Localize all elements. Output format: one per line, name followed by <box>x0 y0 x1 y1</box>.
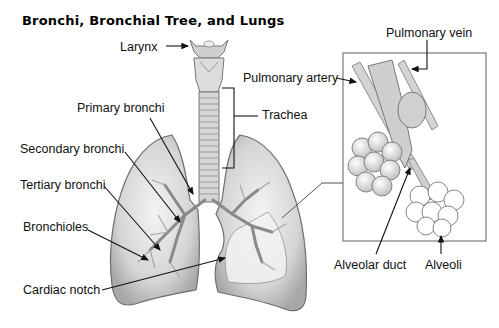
label-secondary-bronchi: Secondary bronchi <box>20 142 124 156</box>
label-pulmonary-vein: Pulmonary vein <box>386 26 472 40</box>
label-alveoli: Alveoli <box>425 258 462 272</box>
label-cardiac-notch: Cardiac notch <box>23 283 100 297</box>
trachea-shape <box>199 92 219 202</box>
label-bronchioles: Bronchioles <box>23 220 88 234</box>
lungs-illustration <box>0 0 499 328</box>
label-tertiary-bronchi: Tertiary bronchi <box>20 178 105 192</box>
label-pulmonary-artery: Pulmonary artery <box>243 71 338 85</box>
label-trachea: Trachea <box>262 108 307 122</box>
right-lung <box>110 135 199 305</box>
label-larynx: Larynx <box>120 40 158 54</box>
label-alveolar-duct: Alveolar duct <box>334 258 406 272</box>
larynx-shape <box>190 40 228 92</box>
label-primary-bronchi: Primary bronchi <box>77 101 165 115</box>
